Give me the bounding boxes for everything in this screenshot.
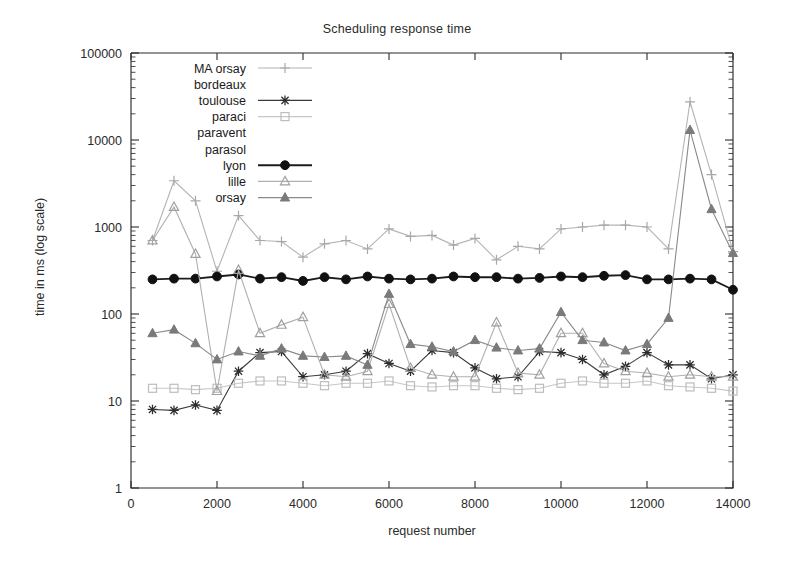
x-tick-label: 12000	[630, 497, 665, 511]
series-paraci	[149, 377, 738, 395]
legend-label-paraci[interactable]: paraci	[212, 110, 246, 124]
x-tick-label: 14000	[716, 497, 751, 511]
x-tick-label: 2000	[203, 497, 231, 511]
series-toulouse	[148, 346, 738, 415]
y-tick-label: 100000	[80, 47, 122, 61]
x-tick-label: 6000	[375, 497, 403, 511]
y-tick-label: 1000	[94, 221, 122, 235]
legend-label-orsay[interactable]: orsay	[215, 191, 246, 205]
chart-figure: Scheduling response time request number …	[0, 0, 794, 568]
series-lille	[148, 202, 738, 395]
y-tick-label: 1	[115, 482, 122, 496]
legend-label-parasol[interactable]: parasol	[205, 143, 246, 157]
legend-sample-lyon	[258, 161, 312, 170]
legend-sample-paraci	[258, 113, 312, 121]
y-tick-label: 10000	[87, 134, 122, 148]
legend-sample-toulouse	[258, 96, 312, 106]
y-tick-label: 10	[108, 395, 122, 409]
legend-label-paravent[interactable]: paravent	[197, 126, 246, 140]
legend-label-bordeaux[interactable]: bordeaux	[194, 78, 247, 92]
legend-label-lyon[interactable]: lyon	[223, 159, 246, 173]
legend-sample-lille	[258, 176, 312, 184]
x-tick-label: 4000	[289, 497, 317, 511]
legend-label-ma-orsay[interactable]: MA orsay	[194, 62, 247, 76]
x-tick-label: 0	[128, 497, 135, 511]
legend-label-lille[interactable]: lille	[228, 175, 246, 189]
legend-label-toulouse[interactable]: toulouse	[199, 94, 246, 108]
x-tick-label: 10000	[544, 497, 579, 511]
legend-sample-orsay	[258, 193, 312, 201]
chart-legend[interactable]: MA orsaybordeauxtoulouseparaciparaventpa…	[194, 62, 312, 206]
plot-area: 1101001000100001000000200040006000800010…	[0, 0, 794, 568]
x-tick-label: 8000	[461, 497, 489, 511]
y-tick-label: 100	[101, 308, 122, 322]
legend-sample-ma-orsay	[258, 63, 312, 73]
